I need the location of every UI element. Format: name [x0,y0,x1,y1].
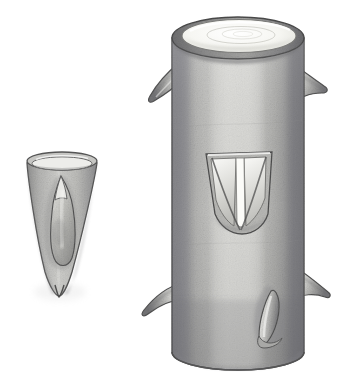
open-rim [27,152,97,170]
top-cut-surface [182,20,296,53]
specimen-illustration [0,0,356,375]
illustration-canvas: Two shaded specimens: a small conical sc… [0,0,356,375]
v-notch-septum [236,158,245,227]
